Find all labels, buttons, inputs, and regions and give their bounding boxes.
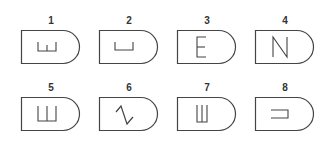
figure-item-4: 4 xyxy=(254,15,316,67)
figure-item-8: 8 xyxy=(254,82,316,134)
figure-item-7: 7 xyxy=(176,82,238,134)
figure-number: 1 xyxy=(20,15,82,27)
figure-number: 5 xyxy=(20,82,82,94)
figure-number: 8 xyxy=(254,82,316,94)
bullet-shape-outline xyxy=(176,29,238,65)
shallow-E-rotated-icon xyxy=(38,42,56,51)
figure-item-1: 1 xyxy=(20,15,82,67)
bullet-shape-outline xyxy=(20,29,82,65)
bullet-shape-outline xyxy=(254,29,316,65)
sha-wide-icon xyxy=(38,106,56,121)
figure-item-5: 5 xyxy=(20,82,82,134)
figure-number: 3 xyxy=(176,15,238,27)
bullet-shape-outline xyxy=(20,96,82,132)
sha-narrow-icon xyxy=(197,105,207,122)
figure-number: 2 xyxy=(98,15,160,27)
zigzag-icon xyxy=(116,106,133,124)
figure-item-3: 3 xyxy=(176,15,238,67)
figure-number: 4 xyxy=(254,15,316,27)
bullet-shape-outline xyxy=(176,96,238,132)
figure-number: 6 xyxy=(98,82,160,94)
bullet-shape-outline xyxy=(254,96,316,132)
letter-n-icon xyxy=(273,37,287,57)
bullet-shape-outline xyxy=(98,96,160,132)
figure-number: 7 xyxy=(176,82,238,94)
bullet-shape-outline xyxy=(98,29,160,65)
figure-item-2: 2 xyxy=(98,15,160,67)
figure-item-6: 6 xyxy=(98,82,160,134)
u-bracket-icon xyxy=(115,42,133,50)
letter-e-icon xyxy=(197,37,206,57)
sideways-bracket-icon xyxy=(271,110,288,118)
